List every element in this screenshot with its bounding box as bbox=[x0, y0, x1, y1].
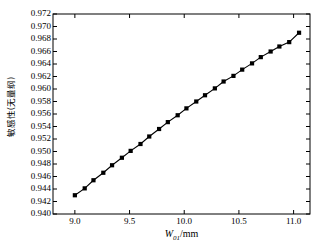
x-axis-label-subscript: 01 bbox=[173, 234, 180, 242]
chart-figure: 敏感性(无量纲) 0.9720.9700.9680.9660.9640.9620… bbox=[0, 0, 322, 251]
data-point-marker bbox=[91, 178, 95, 182]
data-point-marker bbox=[101, 171, 105, 175]
data-point-marker bbox=[157, 127, 161, 131]
data-point-marker bbox=[194, 99, 198, 103]
data-point-marker bbox=[166, 120, 170, 124]
data-point-marker bbox=[83, 186, 87, 190]
data-point-marker bbox=[176, 113, 180, 117]
data-point-marker bbox=[73, 193, 77, 197]
data-point-marker bbox=[297, 31, 301, 35]
data-point-marker bbox=[129, 149, 133, 153]
data-point-marker bbox=[213, 86, 217, 90]
data-point-marker bbox=[120, 156, 124, 160]
x-axis-label: W01/mm bbox=[53, 228, 310, 242]
data-point-marker bbox=[250, 61, 254, 65]
plot-area bbox=[0, 0, 322, 251]
data-point-marker bbox=[240, 68, 244, 72]
data-point-marker bbox=[184, 106, 188, 110]
data-point-marker bbox=[147, 134, 151, 138]
data-point-marker bbox=[259, 55, 263, 59]
plot-frame bbox=[53, 14, 310, 214]
data-point-marker bbox=[231, 74, 235, 78]
x-axis-label-base: W bbox=[165, 228, 173, 239]
data-point-marker bbox=[110, 163, 114, 167]
data-point-marker bbox=[277, 44, 281, 48]
x-axis-label-unit: /mm bbox=[180, 228, 198, 239]
data-point-marker bbox=[203, 93, 207, 97]
data-point-marker bbox=[222, 79, 226, 83]
data-point-marker bbox=[287, 40, 291, 44]
data-point-marker bbox=[138, 142, 142, 146]
data-point-marker bbox=[269, 49, 273, 53]
